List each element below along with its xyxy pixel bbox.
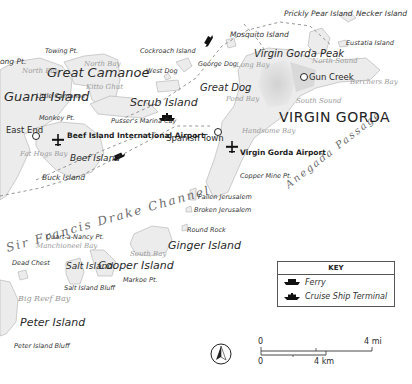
manchioneel-bay-label: Manchioneel Bay (36, 243, 97, 251)
peter-island-landmass (0, 280, 18, 336)
handsome-bay-label: Handsome Bay (242, 128, 282, 136)
george-dog-label: George Dog (198, 61, 226, 68)
virgin-gorda-region-label: VIRGIN GORDA (279, 110, 339, 124)
prickly-pear-label: Prickly Pear Island (284, 10, 326, 18)
scale-km-start: 0 (258, 358, 263, 366)
pussers-marina-label: Pusser's Marina Cay (111, 118, 161, 125)
markoe-pt-label: Markoe Pt. (123, 277, 158, 284)
key-item-ferry: Ferry (278, 275, 394, 289)
fallen-jerusalem-label: Fallen Jerusalem (198, 194, 252, 201)
cruise-ship-icon (284, 293, 300, 300)
east-end-label: East End (6, 126, 43, 135)
scale-bar: 0 4 mi 0 4 km (258, 338, 408, 368)
necker-island-label: Necker Island (356, 10, 390, 18)
scale-mi-start: 0 (258, 338, 263, 346)
peter-island-label: Peter Island (20, 317, 85, 328)
north-arrow-icon (210, 343, 232, 365)
ferry-icon (284, 279, 300, 285)
north-sound-label: North Sound (312, 58, 336, 66)
dead-chest-landmass (18, 270, 28, 280)
scrub-island-label: Scrub Island (130, 97, 198, 108)
little-camanoe-label: Little Camanoe (36, 93, 68, 100)
key-label-ferry: Ferry (305, 278, 326, 287)
south-bay-label: South Bay (130, 251, 150, 259)
pond-bay-label: Pond Bay (226, 96, 244, 104)
virgin-gorda-airport-label: Virgin Gorda Airport (240, 149, 284, 157)
north-bay-east-label: North Bay (84, 61, 121, 69)
scale-km-end: 4 km (314, 358, 334, 366)
north-bay-west-label: North Bay (22, 68, 44, 76)
beef-island-label: Beef Island (70, 154, 120, 163)
dead-chest-label: Dead Chest (12, 260, 36, 267)
broken-jerusalem-label: Broken Jerusalem (194, 207, 251, 214)
map-key: KEY Ferry Cruise Ship Terminal (277, 261, 395, 307)
buck-island-label: Buck Island (42, 174, 70, 182)
round-rock-label: Round Rock (187, 227, 226, 234)
monkey-pt-label: Monkey Pt. (39, 115, 61, 122)
salt-island-bluff-label: Salt Island Bluff (64, 285, 94, 292)
south-sound-label: South Sound (296, 98, 342, 106)
key-label-cruise: Cruise Ship Terminal (305, 292, 387, 301)
towing-pt-label: Towing Pt. (45, 48, 65, 55)
long-bay-label: Long Bay (236, 62, 256, 70)
map: Sir Francis Drake Channel Anegada Passag… (0, 0, 412, 384)
quart-a-nancy-pt-label: Quart-a-Nancy Pt. (46, 234, 104, 241)
virgin-gorda-peak-label: Virgin Gorda Peak (254, 49, 294, 59)
eustatia-island-label: Eustatia Island (346, 40, 394, 47)
gun-creek-marker (301, 74, 308, 81)
great-dog-landmass (156, 80, 180, 92)
berchers-bay-label: Berchers Bay (350, 79, 378, 87)
salt-island-label: Salt Island (66, 262, 90, 271)
long-pt-label: ong Pt. (0, 58, 26, 66)
ferry-icon-mosquito (203, 33, 214, 48)
scale-mi-end: 4 mi (364, 338, 382, 346)
beef-island-airport-label: Beef Island International Airport (67, 132, 143, 140)
george-dog-landmass (176, 58, 192, 72)
peter-island-bluff-label: Peter Island Bluff (14, 343, 46, 350)
ginger-island-label: Ginger Island (168, 240, 241, 251)
cockroach-island-label: Cockroach Island (140, 48, 186, 55)
kitto-ghut-label: Kitto Ghut (86, 84, 106, 92)
mosquito-island-label: Mosquito Island (230, 31, 289, 39)
west-dog-label: West Dog (146, 68, 168, 75)
key-item-cruise: Cruise Ship Terminal (278, 289, 394, 303)
key-title: KEY (278, 262, 394, 275)
great-dog-label: Great Dog (200, 83, 232, 93)
fat-hogs-bay-label: Fat Hogs Bay (20, 151, 54, 159)
copper-mine-pt-label: Copper Mine Pt. (240, 173, 280, 180)
big-reef-bay-label: Big Reef Bay (18, 295, 48, 304)
gun-creek-label: Gun Creek (309, 73, 354, 82)
broken-jerusalem-landmass (186, 206, 192, 212)
